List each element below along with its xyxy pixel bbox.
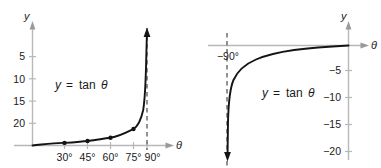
left-x-axis-label: θ (176, 139, 182, 151)
left-xtick-label: 60° (103, 151, 119, 163)
data-point (85, 139, 89, 143)
tangent-function-figure: y θ 20 15 10 5 30° 45° 60° 75° 90° y = t… (0, 0, 381, 168)
left-ytick-label: 5 (19, 50, 25, 62)
right-x-axis-label: θ (371, 39, 377, 51)
right-equation-y: y (261, 86, 269, 100)
chart-panel-right: y θ −5 −10 −15 −20 −90° y = tan θ (190, 0, 381, 168)
data-point (131, 127, 135, 131)
right-equation-fn: tan (286, 86, 303, 100)
left-curve-arrowhead (144, 28, 151, 38)
right-ytick-label: −15 (323, 118, 341, 130)
left-y-axis-label: y (23, 10, 31, 22)
left-asymptote-label: 90° (145, 151, 161, 163)
right-ytick-label: −5 (329, 64, 341, 76)
left-equation-equals: = (66, 78, 73, 92)
right-equation-theta: θ (308, 86, 315, 100)
right-curve-arrowhead (224, 152, 231, 162)
right-equation-equals: = (273, 86, 280, 100)
right-y-axis-label: y (340, 10, 348, 22)
left-equation-label: y = tan θ (54, 78, 108, 92)
left-ytick-label: 10 (13, 73, 25, 85)
left-y-axis (30, 21, 36, 146)
data-point (108, 136, 112, 140)
right-ytick-label: −10 (323, 91, 341, 103)
chart-panel-left: y θ 20 15 10 5 30° 45° 60° 75° 90° y = t… (0, 0, 195, 168)
left-ytick-label: 20 (13, 117, 25, 129)
left-xtick-label: 75° (126, 151, 142, 163)
left-ytick-label: 15 (13, 95, 25, 107)
data-point (62, 141, 66, 145)
left-xtick-label: 45° (80, 151, 96, 163)
right-equation-label: y = tan θ (261, 86, 315, 100)
left-equation-theta: θ (101, 78, 108, 92)
right-ytick-label: −20 (323, 145, 341, 157)
left-xtick-label: 30° (57, 151, 73, 163)
left-equation-y: y (54, 78, 62, 92)
right-asymptote-label: −90° (217, 50, 239, 62)
right-y-axis (346, 21, 352, 160)
left-equation-fn: tan (79, 78, 96, 92)
